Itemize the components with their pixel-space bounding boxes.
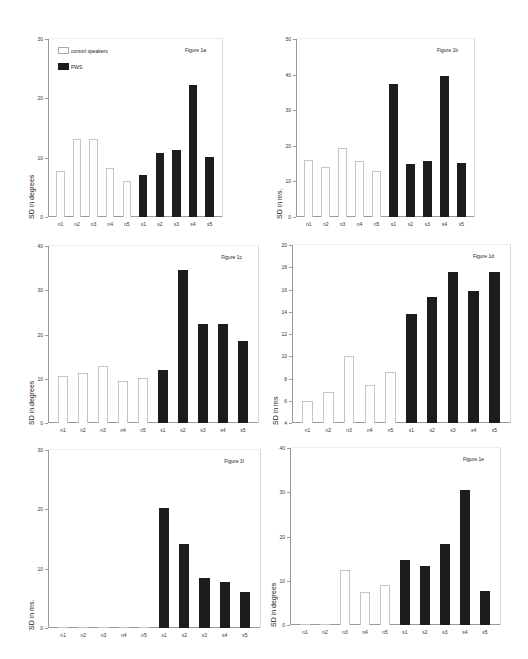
y-tick (293, 75, 296, 76)
bar-n5 (380, 585, 390, 625)
x-tick-label: s5 (478, 629, 492, 635)
y-tick (287, 537, 290, 538)
bar-s2 (427, 297, 437, 423)
bar-s4 (460, 490, 470, 625)
y-axis-line (48, 450, 49, 628)
bar-s1 (158, 370, 168, 423)
y-axis-line (48, 246, 49, 423)
x-tick-label: n3 (87, 221, 101, 227)
y-tick (45, 158, 48, 159)
y-tick (289, 290, 292, 291)
y-tick (293, 110, 296, 111)
bar-s3 (172, 150, 180, 217)
plot-area: 0102030SD in degreesFigure 1an1n2n3n4n5s… (48, 38, 223, 217)
bar-s5 (240, 592, 250, 628)
bar-s1 (139, 175, 147, 217)
bar-s1 (400, 560, 410, 625)
bar-n5 (372, 171, 380, 217)
bar-s5 (480, 591, 490, 625)
bar-n4 (106, 168, 114, 217)
y-axis-title: SD in ms. (28, 600, 35, 630)
x-tick-label: s4 (437, 221, 451, 227)
y-tick-label: 10 (275, 178, 291, 184)
y-tick-label: 40 (269, 445, 285, 451)
y-tick (289, 356, 292, 357)
y-tick-label: 12 (271, 331, 287, 337)
x-tick-label: s4 (216, 427, 230, 433)
bar-n2 (321, 167, 329, 217)
bar-s1 (406, 314, 416, 423)
x-tick-label: n3 (336, 221, 350, 227)
x-tick-label: s5 (487, 427, 501, 433)
x-tick-label: n3 (96, 427, 110, 433)
x-tick-label: n5 (370, 221, 384, 227)
y-tick-label: 16 (271, 287, 287, 293)
bar-n4 (355, 161, 363, 217)
y-tick (45, 569, 48, 570)
y-tick-label: 30 (269, 489, 285, 495)
x-tick-label: n1 (56, 632, 70, 638)
bar-n3 (344, 356, 354, 423)
bar-n2 (73, 139, 81, 217)
bar-n1 (58, 627, 68, 628)
x-tick-label: n4 (116, 427, 130, 433)
x-tick-label: s2 (153, 221, 167, 227)
x-tick-label: s3 (169, 221, 183, 227)
x-tick-label: n2 (70, 221, 84, 227)
y-tick (287, 581, 290, 582)
x-tick-label: n1 (302, 221, 316, 227)
y-tick (45, 290, 48, 291)
bar-n1 (300, 624, 310, 625)
x-tick-label: n5 (378, 629, 392, 635)
bar-n3 (98, 627, 108, 628)
x-tick-label: n1 (56, 427, 70, 433)
bar-s2 (178, 270, 188, 423)
bar-n4 (118, 381, 128, 423)
bar-n4 (119, 627, 129, 628)
x-tick-label: n1 (298, 629, 312, 635)
y-tick-label: 14 (271, 309, 287, 315)
x-tick-label: n5 (384, 427, 398, 433)
bar-s5 (205, 157, 213, 217)
y-axis-title: SD in degrees (270, 583, 277, 627)
y-tick (45, 509, 48, 510)
y-tick (293, 146, 296, 147)
x-tick-label: s5 (454, 221, 468, 227)
x-tick-label: n5 (120, 221, 134, 227)
x-tick-label: n1 (53, 221, 67, 227)
bar-n4 (360, 592, 370, 625)
bar-n1 (304, 160, 312, 217)
bar-n3 (98, 366, 108, 423)
y-tick (289, 267, 292, 268)
x-tick-label: s1 (404, 427, 418, 433)
x-tick-label: s4 (458, 629, 472, 635)
bar-s4 (440, 76, 448, 217)
y-tick-label: 40 (27, 243, 43, 249)
y-tick-label: 10 (27, 566, 43, 572)
plot-area: 01020304050SD in ms.Figure 1bn1n2n3n4n5s… (296, 38, 475, 217)
y-tick (45, 628, 48, 629)
bar-s4 (189, 85, 197, 217)
bar-s4 (220, 582, 230, 628)
y-tick (293, 181, 296, 182)
y-axis-title: SD in ms (272, 397, 279, 425)
x-tick-label: n4 (117, 632, 131, 638)
bar-n3 (89, 139, 97, 217)
bar-s5 (489, 272, 499, 423)
figure-title: Figure 1a (185, 47, 206, 53)
x-tick-label: s5 (238, 632, 252, 638)
y-tick-label: 20 (27, 95, 43, 101)
y-tick-label: 30 (27, 36, 43, 42)
plot-area: 0102030SD in ms.Figure 1fn1n2n3n4n5s1s2s… (48, 449, 261, 628)
bar-s2 (406, 164, 414, 217)
y-tick (45, 217, 48, 218)
x-tick-label: s4 (218, 632, 232, 638)
y-tick-label: 10 (27, 155, 43, 161)
x-tick-label: s1 (398, 629, 412, 635)
y-tick-label: 18 (271, 264, 287, 270)
y-tick (45, 98, 48, 99)
y-tick-label: 20 (27, 332, 43, 338)
bar-n1 (302, 401, 312, 423)
figure-title: Figure 1e (463, 456, 484, 462)
x-tick-label: s2 (176, 427, 190, 433)
